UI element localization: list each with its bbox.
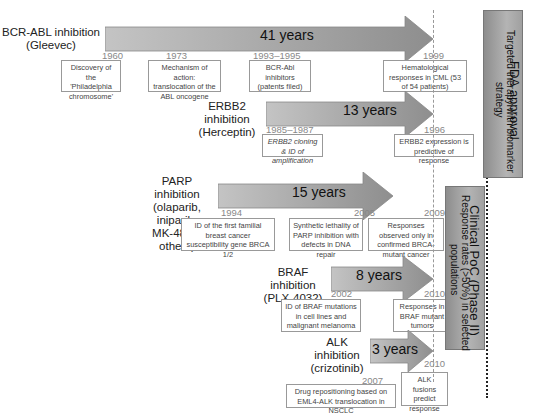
- subtitle-line: strategy: [494, 82, 505, 118]
- milestone-box: Responses in BRAF mutant tumors: [393, 299, 451, 332]
- guide-line: [433, 10, 434, 382]
- milestone-text: ALK fusions predict response: [409, 375, 439, 413]
- milestone-text: ID of BRAF mutations in cell lines and m…: [285, 302, 356, 330]
- track-label-alk: ALK inhibition (crizotinib): [305, 336, 369, 375]
- subtitle-line: Targeted therapy with biomarker: [505, 30, 516, 173]
- milestone-box: Discovery of the 'Philadelphia chromosom…: [61, 60, 121, 92]
- clinical-poc-subtitle: Response rates (>50%) in selected popula…: [449, 195, 471, 345]
- milestone-text: Responses in BRAF mutant tumors: [400, 302, 445, 330]
- milestone-text: Discovery of the 'Philadelphia chromosom…: [69, 63, 113, 101]
- track-label-line: ALK inhibition: [305, 336, 369, 362]
- milestone-box: ERBB2 cloning & ID of amplification: [262, 134, 323, 157]
- milestone-text: Synthetic lethality of PARP inhibition w…: [293, 221, 359, 259]
- track-label-line: BCR-ABL inhibition: [2, 26, 100, 39]
- year-label: 2002: [331, 288, 352, 299]
- duration-label: 15 years: [292, 184, 346, 200]
- duration-label: 3 years: [372, 341, 418, 357]
- milestone-box: Hematological responses in CML (53 of 54…: [383, 60, 467, 92]
- milestone-box: ALK fusions predict response: [401, 372, 448, 406]
- milestone-box: Mechanism of action: translocation of th…: [148, 60, 221, 92]
- subtitle-line: Response rates (>50%) in selected: [460, 195, 471, 351]
- track-label-line: (Herceptin): [190, 126, 264, 139]
- duration-label: 13 years: [343, 102, 397, 118]
- milestone-text: Mechanism of action: translocation of th…: [153, 63, 215, 101]
- fda-approval-subtitle: Targeted therapy with biomarker strategy: [494, 30, 516, 170]
- year-label: 2010: [424, 288, 445, 299]
- milestone-box: ID of BRAF mutations in cell lines and m…: [281, 299, 361, 332]
- milestone-box: Drug repositioning based on EML4-ALK tra…: [286, 384, 396, 408]
- track-label-erbb2: ERBB2 inhibition (Herceptin): [190, 100, 264, 139]
- milestone-text: ID of the first familial breast cancer s…: [187, 221, 270, 259]
- duration-label: 8 years: [356, 267, 402, 283]
- milestone-text: Hematological responses in CML (53 of 54…: [389, 63, 461, 91]
- duration-label: 41 years: [260, 27, 314, 43]
- track-label-line: ERBB2 inhibition: [190, 100, 264, 126]
- milestone-box: ID of the first familial breast cancer s…: [181, 218, 275, 251]
- track-label-line: (Gleevec): [2, 39, 100, 52]
- subtitle-line: populations: [449, 244, 460, 295]
- milestone-box: ERBB2 expression is predictive of respon…: [394, 134, 474, 157]
- year-label: 1994: [221, 207, 242, 218]
- year-label: 2009: [424, 207, 445, 218]
- year-label: 2010: [424, 358, 445, 369]
- milestone-box: Synthetic lethality of PARP inhibition w…: [289, 218, 363, 251]
- milestone-text: ERBB2 cloning & ID of amplification: [268, 137, 318, 165]
- track-label-bcr-abl: BCR-ABL inhibition (Gleevec): [2, 26, 100, 52]
- milestone-box: BCR-Abl inhibitors (patents filed): [249, 60, 311, 92]
- track-label-line: PARP inhibition: [138, 175, 216, 201]
- milestone-text: BCR-Abl inhibitors (patents filed): [258, 63, 303, 91]
- milestone-text: Responses observed only in confirmed BRC…: [377, 221, 435, 259]
- milestone-text: Drug repositioning based on EML4-ALK tra…: [295, 387, 387, 415]
- year-label: 2005: [354, 207, 375, 218]
- track-label-line: BRAF inhibition: [258, 266, 328, 292]
- track-label-line: (crizotinib): [305, 362, 369, 375]
